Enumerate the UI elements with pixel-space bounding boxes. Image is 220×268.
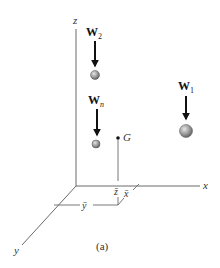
x-bar-label: x̄ bbox=[123, 188, 129, 199]
weight-w1-subscript: 1 bbox=[190, 86, 194, 95]
weight-w2-subscript: 2 bbox=[98, 32, 102, 41]
y-axis-label: y bbox=[13, 244, 19, 256]
center-of-gravity-label: G bbox=[123, 131, 131, 143]
y-axis bbox=[22, 186, 76, 245]
weight-w2-symbol: W bbox=[86, 25, 98, 39]
weight-w1-symbol: W bbox=[178, 79, 190, 93]
weight-w2-sphere bbox=[91, 71, 100, 80]
z-bar-label: z̄ bbox=[113, 186, 118, 197]
weight-w2: W 2 bbox=[86, 25, 102, 80]
weight-wn-symbol: W bbox=[88, 93, 100, 107]
y-bar-label: ȳ bbox=[81, 200, 87, 211]
x-bar-line-lower bbox=[118, 198, 124, 205]
x-bar-line-upper bbox=[133, 184, 139, 190]
weight-w1-sphere bbox=[180, 125, 193, 138]
z-axis-label: z bbox=[72, 14, 78, 26]
weight-w1: W 1 bbox=[178, 79, 194, 138]
center-of-gravity-point bbox=[116, 136, 120, 140]
figure-caption: (a) bbox=[96, 240, 109, 253]
weight-wn-subscript: n bbox=[100, 100, 104, 109]
center-of-gravity-diagram: z x y W 2 W n W 1 G z̄ x̄ ȳ (a) bbox=[0, 0, 220, 268]
weight-wn: W n bbox=[88, 93, 104, 148]
weight-wn-sphere bbox=[92, 140, 100, 148]
x-axis-label: x bbox=[202, 179, 208, 191]
